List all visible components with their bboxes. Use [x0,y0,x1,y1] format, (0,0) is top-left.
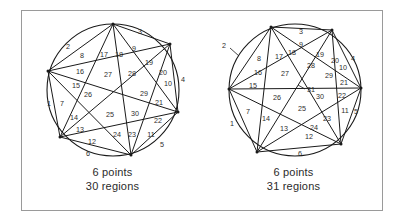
region-label-14: 14 [70,113,78,122]
region-label-3: 3 [138,27,142,36]
point-v-left [228,88,231,91]
region-label-27: 27 [104,70,112,79]
point-v-top-right [331,29,334,32]
region-label-28: 28 [128,69,136,78]
point-v-top-left [270,26,273,29]
chord-v-top-right-to-v-lower-right [332,30,341,144]
region-label-8: 8 [80,51,84,60]
region-label-31: 31 [307,85,315,94]
region-label-24: 24 [113,130,121,139]
region-label-23: 23 [128,130,136,139]
region-label-24: 24 [310,123,318,132]
circle-diagram-30-regions: 1234567891011121314151617181920212223242… [22,11,203,166]
region-label-20: 20 [331,56,339,65]
region-label-16: 16 [76,67,84,76]
region-label-14: 14 [262,114,270,123]
region-label-4: 4 [351,54,355,63]
point-v-bottom [130,154,133,157]
region-label-26: 26 [84,90,92,99]
point-v-lower-right [340,143,343,146]
region-label-6: 6 [298,149,302,158]
region-label-22: 22 [338,91,346,100]
panel-right-31-regions: 1234567891011121314151617181920212223242… [203,11,384,212]
region-label-4: 4 [181,75,185,84]
point-v-lower-left [59,136,62,139]
chord-v-top-to-v-right [113,24,178,112]
region-label-3: 3 [299,27,303,36]
region-label-29: 29 [325,71,333,80]
region-label-12: 12 [305,132,313,141]
region-label-20: 20 [159,68,167,77]
region-label-30: 30 [316,92,324,101]
region-label-23: 23 [323,114,331,123]
point-v-upper-right [169,43,172,46]
region-label-10: 10 [339,63,347,72]
region-label-28: 28 [307,61,315,70]
caption-points-right: 6 points [203,166,384,179]
region-label-16: 16 [254,68,262,77]
region-label-1: 1 [47,99,51,108]
region-label-26: 26 [273,93,281,102]
point-v-lower-left [256,151,259,154]
region-label-1: 1 [230,119,234,128]
point-v-left [47,70,50,73]
region-label-2: 2 [66,42,70,51]
caption-regions-right: 31 regions [203,180,384,193]
region-label-13: 13 [76,125,84,134]
figure-frame: 1234567891011121314151617181920212223242… [21,10,383,211]
point-v-top [112,23,115,26]
region-label-15: 15 [249,81,257,90]
point-v-right [177,111,180,114]
leader-2 [230,48,239,56]
region-label-19: 19 [145,58,153,67]
figure-root: 1234567891011121314151617181920212223242… [0,0,401,219]
region-label-18: 18 [288,48,296,57]
circle-diagram-31-regions: 1234567891011121314151617181920212223242… [203,11,384,166]
region-label-7: 7 [60,99,64,108]
region-label-11: 11 [341,106,348,115]
region-label-9: 9 [132,44,136,53]
region-label-12: 12 [88,137,96,146]
region-label-7: 7 [246,107,250,116]
region-label-13: 13 [280,124,288,133]
region-label-5: 5 [160,140,164,149]
region-label-17: 17 [100,50,108,59]
region-label-18: 18 [115,50,123,59]
region-label-8: 8 [257,54,261,63]
region-label-25: 25 [298,104,306,113]
region-label-25: 25 [106,110,114,119]
region-label-15: 15 [72,81,80,90]
point-v-right [360,87,363,90]
region-label-21: 21 [155,98,163,107]
caption-points-left: 6 points [22,166,203,179]
region-label-27: 27 [281,69,289,78]
region-label-19: 19 [316,50,324,59]
region-label-21: 21 [340,78,348,87]
caption-regions-left: 30 regions [22,180,203,193]
region-label-29: 29 [140,89,148,98]
region-label-22: 22 [154,116,162,125]
region-label-10: 10 [164,79,172,88]
panel-left-30-regions: 1234567891011121314151617181920212223242… [22,11,203,212]
region-label-2: 2 [222,41,226,50]
region-label-5: 5 [354,107,358,116]
region-label-6: 6 [86,149,90,158]
region-label-17: 17 [275,52,283,61]
region-label-30: 30 [131,109,139,118]
region-label-11: 11 [147,130,154,139]
region-label-9: 9 [299,40,303,49]
